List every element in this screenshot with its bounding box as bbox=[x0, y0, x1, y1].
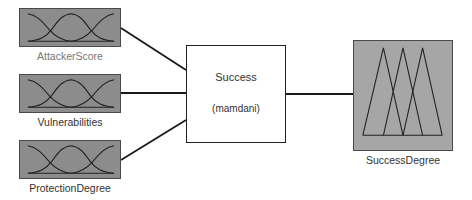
input-attackerscore-label: AttackerScore bbox=[19, 50, 121, 62]
output-successdegree-label: SuccessDegree bbox=[353, 154, 453, 166]
input-protectiondegree-box[interactable] bbox=[19, 140, 121, 179]
output-successdegree-box[interactable] bbox=[353, 40, 453, 151]
wire-attackerscore bbox=[121, 28, 186, 70]
wire-protectiondegree bbox=[121, 120, 186, 160]
system-name: Success bbox=[187, 71, 285, 83]
gaussian-mf-icon bbox=[20, 75, 120, 112]
input-attackerscore-box[interactable] bbox=[19, 8, 121, 47]
input-vulnerabilities-box[interactable] bbox=[19, 74, 121, 113]
triangular-mf-icon bbox=[354, 41, 452, 150]
input-protectiondegree-label: ProtectionDegree bbox=[19, 182, 121, 194]
gaussian-mf-icon bbox=[20, 141, 120, 178]
gaussian-mf-icon bbox=[20, 9, 120, 46]
input-vulnerabilities-label: Vulnerabilities bbox=[19, 116, 121, 128]
fis-system-box[interactable]: Success (mamdani) bbox=[186, 45, 286, 143]
system-type: (mamdani) bbox=[187, 103, 285, 114]
